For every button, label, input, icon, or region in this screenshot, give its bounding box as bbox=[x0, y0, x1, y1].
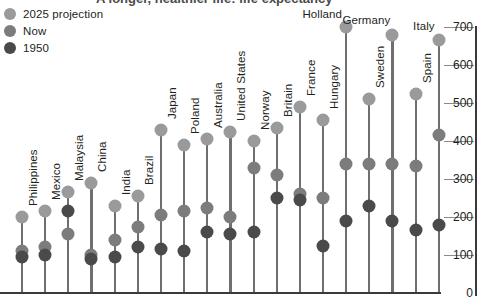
legend-label-now: Now bbox=[23, 25, 46, 37]
y-axis-tick-400: 400 bbox=[441, 141, 475, 155]
data-point bbox=[270, 169, 283, 182]
data-point bbox=[108, 199, 121, 212]
y-axis-tick-label: 700 bbox=[453, 20, 473, 34]
data-point bbox=[16, 211, 29, 224]
data-point bbox=[247, 161, 260, 174]
stem-line bbox=[276, 128, 278, 293]
data-point bbox=[363, 93, 376, 106]
category-label-mexico: Mexico bbox=[50, 163, 62, 200]
stem-line bbox=[322, 120, 324, 293]
y-axis-tick-500: 500 bbox=[441, 103, 475, 117]
category-label-germany: Germany bbox=[338, 14, 390, 26]
y-axis-tick-label: 300 bbox=[453, 172, 473, 186]
category-label-japan: Japan bbox=[166, 87, 178, 119]
category-label-spain: Spain bbox=[421, 53, 433, 83]
data-point bbox=[16, 250, 29, 263]
data-point bbox=[363, 157, 376, 170]
legend-swatch-2025-projection bbox=[4, 8, 16, 20]
data-point bbox=[62, 186, 75, 199]
data-point bbox=[178, 205, 191, 218]
category-label-australia: Australia bbox=[212, 82, 224, 128]
data-point bbox=[108, 250, 121, 263]
data-point bbox=[340, 157, 353, 170]
data-point bbox=[386, 214, 399, 227]
stem-line bbox=[114, 206, 116, 293]
data-point bbox=[85, 176, 98, 189]
data-point bbox=[224, 228, 237, 241]
data-point bbox=[224, 125, 237, 138]
data-point bbox=[316, 114, 329, 127]
y-axis-spine bbox=[475, 26, 477, 296]
data-point bbox=[154, 123, 167, 136]
stem-line bbox=[438, 40, 440, 293]
y-axis-tick-600: 600 bbox=[441, 65, 475, 79]
x-axis-baseline bbox=[0, 292, 441, 295]
category-label-sweden: Sweden bbox=[374, 46, 386, 88]
data-point bbox=[131, 220, 144, 233]
stem-line bbox=[206, 139, 208, 293]
category-label-united-states: United States bbox=[235, 50, 247, 120]
data-point bbox=[270, 192, 283, 205]
category-label-india: India bbox=[120, 169, 132, 194]
category-label-philippines: Philippines bbox=[27, 149, 39, 206]
data-point bbox=[386, 157, 399, 170]
legend-swatch-1950 bbox=[4, 42, 16, 54]
data-point bbox=[201, 226, 214, 239]
legend-swatch-now bbox=[4, 25, 16, 37]
data-point bbox=[247, 226, 260, 239]
data-point bbox=[131, 190, 144, 203]
category-label-china: China bbox=[96, 141, 108, 172]
data-point bbox=[62, 228, 75, 241]
data-point bbox=[154, 209, 167, 222]
data-point bbox=[131, 241, 144, 254]
chart-title: A longer, healthier life: life expectanc… bbox=[96, 0, 332, 6]
data-point bbox=[178, 245, 191, 258]
y-axis-tick-label: 0 bbox=[466, 286, 473, 300]
data-point bbox=[363, 199, 376, 212]
category-label-hungary: Hungary bbox=[328, 65, 340, 109]
data-point bbox=[39, 205, 52, 218]
y-axis-tick-100: 100 bbox=[441, 255, 475, 269]
category-label-italy: Italy bbox=[395, 20, 435, 32]
stem-line bbox=[415, 94, 417, 294]
data-point bbox=[409, 159, 422, 172]
stem-line bbox=[90, 183, 92, 293]
data-point bbox=[340, 214, 353, 227]
data-point bbox=[409, 224, 422, 237]
y-axis-tick-label: 600 bbox=[453, 58, 473, 72]
data-point bbox=[85, 252, 98, 265]
data-point bbox=[224, 211, 237, 224]
chart-legend: 2025 projection Now 1950 bbox=[4, 6, 103, 57]
y-axis-tick-label: 500 bbox=[453, 96, 473, 110]
category-label-poland: Poland bbox=[189, 97, 201, 133]
data-point bbox=[293, 193, 306, 206]
data-point bbox=[62, 205, 75, 218]
y-axis: 0100200300400500600700 bbox=[441, 0, 482, 306]
y-axis-tick-label: 100 bbox=[453, 248, 473, 262]
y-axis-tick-label: 400 bbox=[453, 134, 473, 148]
y-axis-tick-700: 700 bbox=[441, 27, 475, 41]
data-point bbox=[201, 133, 214, 146]
data-point bbox=[316, 192, 329, 205]
category-label-holland: Holland bbox=[290, 8, 342, 20]
legend-item-now: Now bbox=[4, 23, 103, 39]
legend-label-2025-projection: 2025 projection bbox=[23, 8, 103, 20]
category-label-malaysia: Malaysia bbox=[73, 135, 85, 181]
data-point bbox=[293, 100, 306, 113]
data-point bbox=[108, 233, 121, 246]
chart-container: A longer, healthier life: life expectanc… bbox=[0, 0, 482, 306]
legend-item-2025-projection: 2025 projection bbox=[4, 6, 103, 22]
data-point bbox=[409, 87, 422, 100]
y-axis-tick-label: 200 bbox=[453, 210, 473, 224]
category-label-britain: Britain bbox=[282, 83, 294, 116]
y-axis-tick-200: 200 bbox=[441, 217, 475, 231]
stem-line bbox=[183, 145, 185, 293]
data-point bbox=[316, 239, 329, 252]
data-point bbox=[39, 249, 52, 262]
legend-item-1950: 1950 bbox=[4, 40, 103, 56]
category-label-france: France bbox=[305, 59, 317, 95]
data-point bbox=[201, 201, 214, 214]
data-point bbox=[154, 243, 167, 256]
category-label-norway: Norway bbox=[259, 90, 271, 130]
y-axis-tick-0: 0 bbox=[441, 293, 475, 306]
